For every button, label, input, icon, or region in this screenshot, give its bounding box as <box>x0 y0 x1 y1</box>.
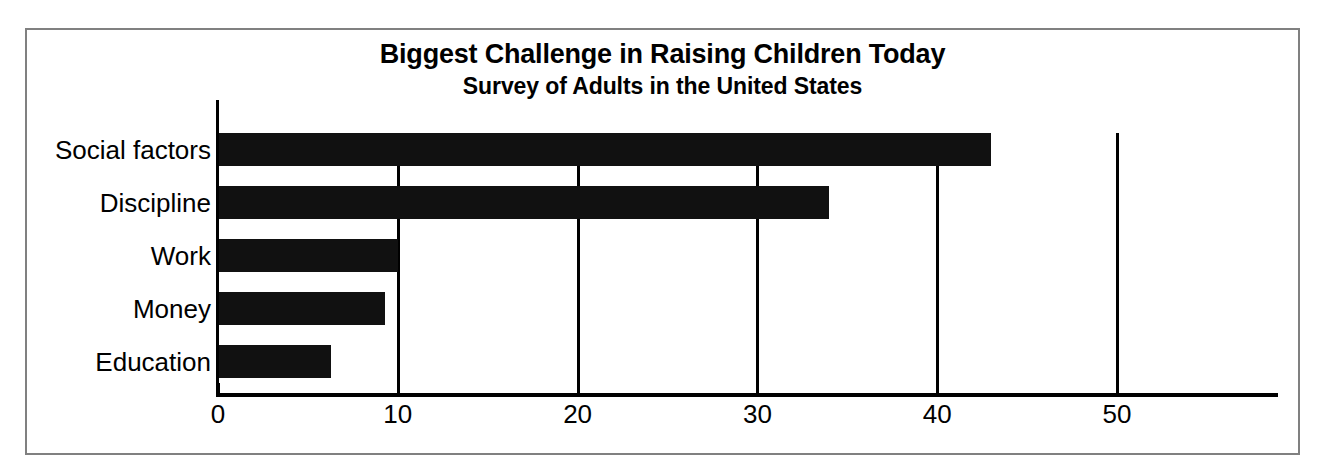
category-label-work: Work <box>0 243 211 269</box>
category-label-social-factors: Social factors <box>0 137 211 163</box>
y-axis-line <box>216 100 219 395</box>
x-tick-30 <box>756 383 759 393</box>
gridline-50 <box>1116 133 1119 393</box>
bar-money <box>218 292 385 325</box>
bar-social-factors <box>218 133 991 166</box>
category-label-money: Money <box>0 296 211 322</box>
x-tick-0 <box>217 383 220 393</box>
gridline-40 <box>936 166 939 393</box>
category-label-education: Education <box>0 349 211 375</box>
x-tick-label-20: 20 <box>543 400 613 429</box>
x-tick-label-40: 40 <box>902 400 972 429</box>
x-tick-label-50: 50 <box>1082 400 1152 429</box>
x-tick-label-0: 0 <box>183 400 253 429</box>
x-tick-label-10: 10 <box>363 400 433 429</box>
x-axis-line <box>216 393 1278 397</box>
bar-discipline <box>218 186 829 219</box>
bar-education <box>218 345 331 378</box>
x-tick-10 <box>397 383 400 393</box>
x-tick-20 <box>577 383 580 393</box>
x-tick-50 <box>1116 383 1119 393</box>
x-tick-label-30: 30 <box>722 400 792 429</box>
plot-area: 01020304050 Social factorsDisciplineWork… <box>0 0 1321 472</box>
category-label-discipline: Discipline <box>0 190 211 216</box>
chart-figure: Biggest Challenge in Raising Children To… <box>0 0 1321 472</box>
x-tick-40 <box>936 383 939 393</box>
bar-work <box>218 239 398 272</box>
